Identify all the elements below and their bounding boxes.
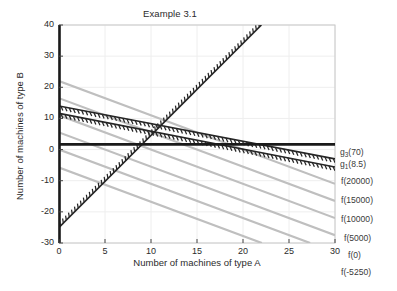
constraint-hatch [146,135,147,140]
constraint-hatch [89,192,90,197]
constraint-hatch [256,25,257,30]
constraint-hatch [95,186,96,191]
constraint-hatch [175,106,176,111]
constraint-hatch [104,177,105,182]
x-tick-label: 30 [323,246,347,256]
constraint-hatch [238,43,239,48]
y-tick-label: 20 [28,81,54,91]
constraint-hatch [113,168,114,173]
constraint-hatch [83,198,84,203]
constraint-hatch [247,34,248,39]
constraint-hatch [134,147,135,152]
legend-item-f15000: f(15000) [341,196,373,205]
gridlines [59,25,335,243]
constraint-hatch [72,210,73,215]
legend-item-f10000: f(10000) [341,215,373,224]
constraint-hatch [125,156,126,161]
constraint-hatch [98,183,99,188]
constraint-hatch [181,100,182,105]
x-tick-label: 20 [231,246,255,256]
constraint-hatch [226,55,227,60]
constraint-hatch [119,162,120,167]
contour-line-f(0) [59,150,310,243]
constraint-hatch [170,112,171,117]
constraint-hatch [229,52,230,57]
constraint-hatch [220,61,221,66]
constraint-hatch [253,28,254,33]
constraint-hatch [214,67,215,72]
legend-label-g1-text: g1(8.5) [340,159,366,169]
constraint-hatch [155,126,156,131]
x-tick-label: 15 [185,246,209,256]
constraint-hatch [92,189,93,194]
constraint-hatch [199,82,200,87]
constraint-hatch [66,216,67,221]
constraint-hatch [208,73,209,78]
y-tick-label: 10 [28,112,54,122]
constraint-hatch [110,171,111,176]
constraint-hatch [211,70,212,75]
constraint-hatch [167,115,168,120]
constraint-hatch [232,49,233,54]
constraint-hatch [122,159,123,164]
constraint-hatch [223,58,224,63]
constraint-hatch [235,46,236,51]
constraint-hatch [80,201,81,206]
constraint-hatch [152,129,153,134]
x-tick-label: 10 [139,246,163,256]
constraint-hatch [172,109,173,114]
legend-item-g1: g1(8.5) [340,160,366,169]
y-tick-label: 0 [28,144,54,154]
constraint-hatch [161,120,162,125]
constraint-hatch [241,40,242,45]
constraint-hatch [158,123,159,128]
x-tick-label: 25 [277,246,301,256]
y-tick-label: 40 [28,19,54,29]
figure-container: Example 3.1 Number of machines of type B… [0,0,397,291]
constraint-hatch [101,180,102,185]
legend-item-f0: f(0) [348,251,361,260]
legend-label-g3-text: g3(70) [340,147,364,157]
constraint-hatch [184,97,185,102]
constraint-hatch [131,150,132,155]
constraint-hatch [149,132,150,137]
constraint-hatch [187,94,188,99]
constraint-hatch [74,207,75,212]
constraint-hatch [63,219,64,224]
constraint-hatch [128,153,129,158]
constraint-hatch [217,64,218,69]
legend-item-g3: g3(70) [340,148,364,157]
constraint-hatch [164,118,165,123]
constraint-hatch [193,88,194,93]
legend-item-f20000: f(20000) [341,177,373,186]
legend-item-fneg5250: f(-5250) [341,268,371,277]
constraint-hatch [86,195,87,200]
y-tick-label: 30 [28,50,54,60]
constraint-hatch [202,79,203,84]
x-tick-label: 0 [47,246,71,256]
constraint-hatch [190,91,191,96]
constraint-hatch [69,213,70,218]
constraint-hatch [143,138,144,143]
y-tick-label: -10 [28,175,54,185]
y-tick-label: -20 [28,206,54,216]
constraint-hatch [77,204,78,209]
constraint-hatch [196,85,197,90]
constraint-hatch [244,37,245,42]
constraint-hatch [116,165,117,170]
constraint-hatch [250,31,251,36]
x-tick-label: 5 [93,246,117,256]
constraint-hatch [178,103,179,108]
constraint-hatch [205,76,206,81]
constraint-hatch [107,174,108,179]
legend-item-f5000: f(5000) [344,234,371,243]
